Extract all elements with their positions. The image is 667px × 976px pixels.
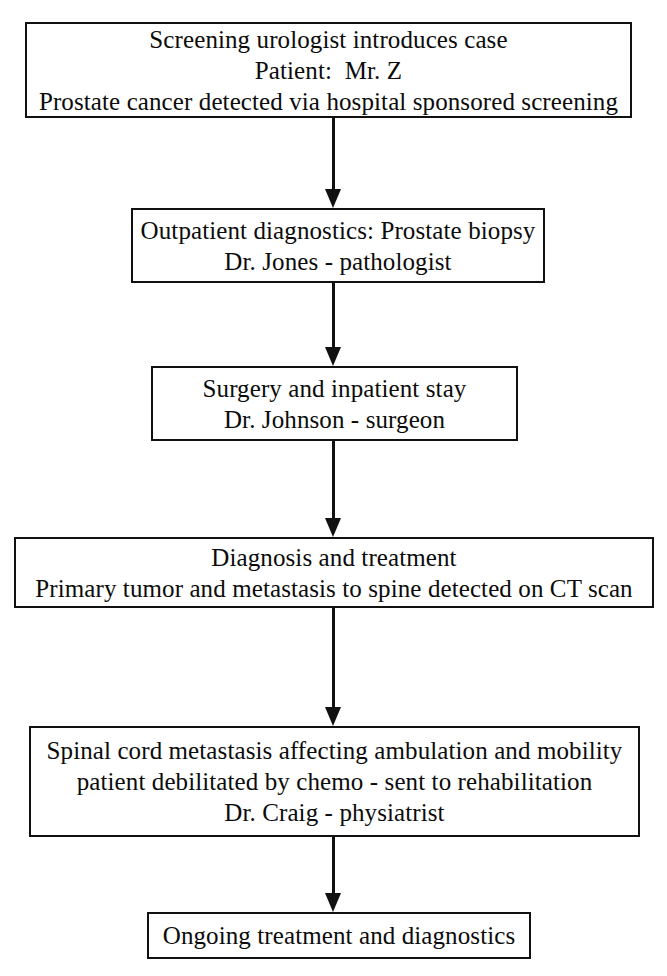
arrow-shaft — [332, 118, 335, 190]
arrow-shaft — [332, 283, 335, 348]
arrow-shaft — [332, 608, 335, 708]
arrow-node5-to-node6 — [320, 837, 346, 912]
node-text-line: Patient: Mr. Z — [255, 55, 402, 86]
node-text-line: Ongoing treatment and diagnostics — [163, 920, 516, 951]
arrow-shaft — [332, 441, 335, 519]
spinal-cord-metastasis-box: Spinal cord metastasis affecting ambulat… — [29, 726, 640, 837]
node-text-line: Screening urologist introduces case — [149, 24, 507, 55]
node-text-line: Primary tumor and metastasis to spine de… — [35, 573, 632, 604]
node-text-line: Prostate cancer detected via hospital sp… — [39, 86, 618, 117]
flowchart-canvas: Screening urologist introduces case Pati… — [0, 0, 667, 976]
arrow-node3-to-node4 — [320, 441, 346, 537]
arrow-head-icon — [325, 518, 341, 537]
arrow-head-icon — [325, 707, 341, 726]
surgery-inpatient-box: Surgery and inpatient stay Dr. Johnson -… — [151, 366, 518, 441]
node-text-line: Diagnosis and treatment — [211, 542, 456, 573]
arrow-head-icon — [325, 189, 341, 208]
arrow-node2-to-node3 — [320, 283, 346, 366]
node-text-line: Surgery and inpatient stay — [203, 373, 467, 404]
node-text-line: Dr. Craig - physiatrist — [224, 797, 444, 828]
node-text-line: Spinal cord metastasis affecting ambulat… — [47, 735, 623, 766]
arrow-node4-to-node5 — [320, 608, 346, 726]
arrow-shaft — [332, 837, 335, 894]
node-text-line: Dr. Jones - pathologist — [224, 246, 451, 277]
outpatient-diagnostics-box: Outpatient diagnostics: Prostate biopsy … — [131, 208, 545, 283]
arrow-head-icon — [325, 347, 341, 366]
diagnosis-treatment-box: Diagnosis and treatment Primary tumor an… — [14, 537, 654, 608]
node-text-line: Outpatient diagnostics: Prostate biopsy — [141, 215, 536, 246]
screening-urologist-box: Screening urologist introduces case Pati… — [25, 22, 632, 118]
arrow-node1-to-node2 — [320, 118, 346, 208]
arrow-head-icon — [325, 893, 341, 912]
ongoing-treatment-box: Ongoing treatment and diagnostics — [147, 912, 531, 959]
node-text-line: patient debilitated by chemo - sent to r… — [77, 766, 593, 797]
node-text-line: Dr. Johnson - surgeon — [224, 404, 445, 435]
